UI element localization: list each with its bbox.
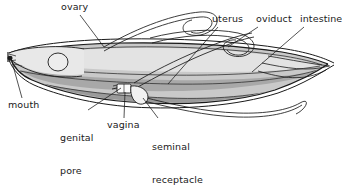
pharyngeal-bulb — [48, 53, 68, 71]
head-region — [7, 47, 84, 77]
label-vagina: vagina — [107, 119, 140, 130]
label-intestine: intestine — [300, 13, 342, 24]
label-uterus: uterus — [212, 13, 243, 24]
label-oviduct: oviduct — [256, 13, 292, 24]
label-mouth: mouth — [8, 99, 39, 110]
label-genital-pore-line1: genital — [60, 132, 93, 143]
label-seminal-receptacle-line2: receptacle — [152, 174, 203, 185]
label-seminal-receptacle-line1: seminal — [152, 141, 203, 152]
vagina-chamber — [117, 84, 131, 93]
leader-ovary — [80, 15, 104, 47]
label-genital-pore-line2: pore — [60, 165, 93, 176]
label-genital-pore: genital pore — [60, 110, 93, 187]
label-ovary: ovary — [61, 1, 88, 12]
label-seminal-receptacle: seminal receptacle — [152, 119, 203, 196]
